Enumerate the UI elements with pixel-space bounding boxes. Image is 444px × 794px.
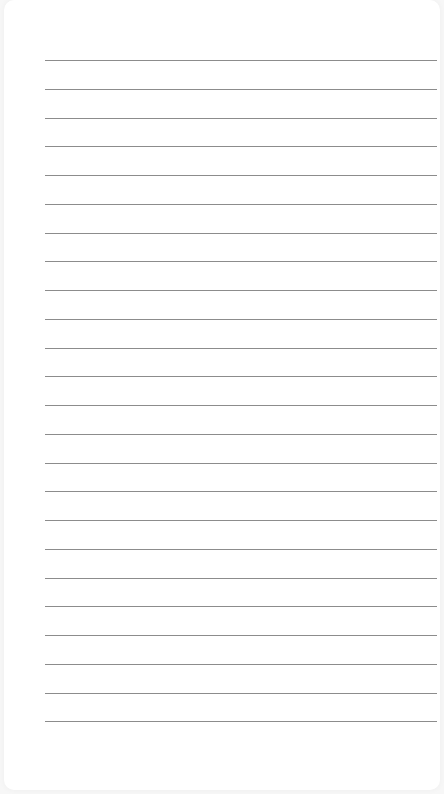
ruled-line	[45, 290, 437, 291]
ruled-line	[45, 405, 437, 406]
ruled-line	[45, 60, 437, 61]
ruled-line	[45, 89, 437, 90]
ruled-line	[45, 721, 437, 722]
ruled-line	[45, 578, 437, 579]
ruled-line	[45, 319, 437, 320]
ruled-line	[45, 693, 437, 694]
ruled-line	[45, 549, 437, 550]
ruled-line	[45, 204, 437, 205]
ruled-line	[45, 261, 437, 262]
ruled-line	[45, 348, 437, 349]
ruled-line	[45, 175, 437, 176]
ruled-lines	[0, 0, 444, 794]
ruled-line	[45, 606, 437, 607]
ruled-line	[45, 434, 437, 435]
ruled-line	[45, 520, 437, 521]
ruled-line	[45, 664, 437, 665]
ruled-line	[45, 491, 437, 492]
ruled-line	[45, 463, 437, 464]
ruled-line	[45, 233, 437, 234]
ruled-line	[45, 376, 437, 377]
ruled-line	[45, 118, 437, 119]
ruled-line	[45, 146, 437, 147]
ruled-line	[45, 635, 437, 636]
